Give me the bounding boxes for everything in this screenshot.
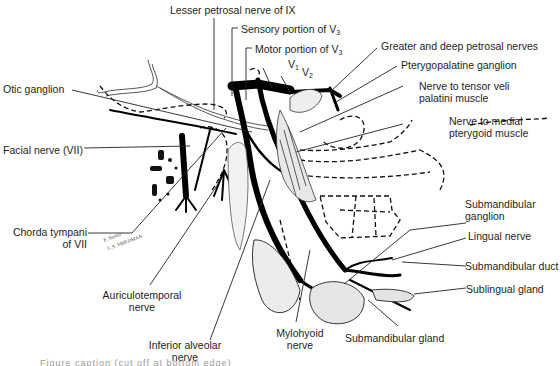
- label-subscript: 3: [336, 29, 340, 36]
- label-line-1: Submandibular: [465, 198, 536, 210]
- label-line-1: Nerve to medial: [449, 115, 528, 127]
- label-line-1: Auriculotemporal: [92, 289, 192, 301]
- label-subscript: 1: [295, 64, 299, 71]
- label-motor-portion-v3: Motor portion of V3: [255, 43, 342, 59]
- label-line-2: nerve: [92, 301, 192, 313]
- label-nerve-to-medial-pterygoid: Nerve to medial pterygoid muscle: [449, 115, 528, 139]
- label-v1: V1: [288, 58, 299, 74]
- label-text: V: [302, 66, 309, 78]
- label-text: Motor portion of V: [255, 43, 338, 55]
- label-subscript: 3: [338, 49, 342, 56]
- label-line-1: Chorda tympani: [8, 226, 87, 238]
- temporal-bone-speckles: [150, 150, 178, 202]
- label-line-1: Nerve to tensor veli: [419, 80, 509, 92]
- label-submandibular-duct: Submandibular duct: [465, 260, 558, 272]
- medial-pterygoid-muscle: [277, 110, 316, 202]
- label-line-2: ganglion: [465, 210, 536, 222]
- label-otic-ganglion: Otic ganglion: [3, 83, 64, 95]
- label-facial-nerve: Facial nerve (VII): [3, 144, 83, 156]
- label-chorda-tympani: Chorda tympani of VII: [8, 226, 87, 250]
- label-sensory-portion-v3: Sensory portion of V3: [241, 23, 340, 39]
- label-v2: V2: [302, 66, 313, 82]
- label-greater-deep-petrosal-nerves: Greater and deep petrosal nerves: [381, 40, 538, 52]
- label-pterygopalatine-ganglion: Pterygopalatine ganglion: [401, 59, 517, 71]
- label-text: Sensory portion of V: [241, 23, 336, 35]
- label-line-1: Inferior alveolar: [135, 339, 235, 351]
- label-line-2: pterygoid muscle: [449, 127, 528, 139]
- label-auriculotemporal-nerve: Auriculotemporal nerve: [92, 289, 192, 313]
- label-submandibular-ganglion: Submandibular ganglion: [465, 198, 536, 222]
- label-sublingual-gland: Sublingual gland: [466, 283, 544, 295]
- label-submandibular-gland: Submandibular gland: [345, 332, 444, 344]
- label-line-1: Mylohyoid: [260, 327, 340, 339]
- styloid-process: [228, 143, 248, 251]
- label-mylohyoid-nerve: Mylohyoid nerve: [260, 327, 340, 351]
- label-line-2: of VII: [8, 238, 87, 250]
- label-lesser-petrosal-nerve: Lesser petrosal nerve of IX: [170, 4, 295, 16]
- figure-caption-cut-off: Figure caption (cut off at bottom edge): [40, 358, 520, 366]
- label-subscript: 2: [309, 72, 313, 79]
- label-line-2: palatini muscle: [419, 92, 509, 104]
- label-line-2: nerve: [260, 339, 340, 351]
- label-text: V: [288, 58, 295, 70]
- label-nerve-to-tensor-veli-palatini: Nerve to tensor veli palatini muscle: [419, 80, 509, 104]
- label-lingual-nerve: Lingual nerve: [468, 230, 531, 242]
